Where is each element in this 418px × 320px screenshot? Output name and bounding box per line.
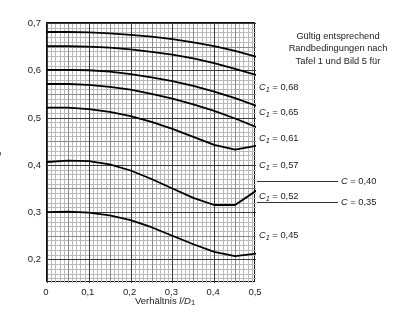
validity-note-line1: Gültig entsprechend <box>262 30 414 42</box>
curve-label-2: C1 = 0,65 <box>259 107 298 118</box>
curve-label-symbol: C <box>259 133 266 143</box>
chart-figure: 0,20,30,40,50,60,700,10,20,30,40,5 Berec… <box>0 0 418 320</box>
leader-label-2: C = 0,35 <box>341 197 376 207</box>
validity-note-line3: Tafel 1 und Bild 5 für <box>262 55 414 67</box>
curve-label-symbol: C <box>259 160 266 170</box>
y-axis-title: Berechnungsbeiwert C4 <box>0 102 2 202</box>
curve-label-value: = 0,65 <box>270 107 299 117</box>
x-tick-0-5: 0,5 <box>248 286 261 297</box>
curve-label-value: = 0,57 <box>270 160 299 170</box>
y-tick-0-5: 0,5 <box>11 111 41 122</box>
validity-note-line2: Randbedingungen nach <box>262 42 414 54</box>
curve-label-value: = 0,68 <box>270 82 299 92</box>
curve-label-value: = 0,61 <box>270 133 299 143</box>
x-tick-0-4: 0,4 <box>207 286 220 297</box>
curve-label-symbol: C <box>259 82 266 92</box>
x-axis-title-italic: l/D <box>179 295 191 306</box>
leader-label-value: = 0,40 <box>348 176 377 186</box>
curve-label-symbol: C <box>259 107 266 117</box>
curve-label-3: C1 = 0,61 <box>259 133 298 144</box>
curve-label-symbol: C <box>259 230 266 240</box>
curve-label-5: C1 = 0,52 <box>259 191 298 202</box>
curve-label-value: = 0,52 <box>270 191 299 201</box>
x-tick-0-1: 0,1 <box>81 286 94 297</box>
x-axis-title: Verhältnis l/D1 <box>135 295 195 307</box>
x-axis-title-text: Verhältnis <box>135 295 179 306</box>
curve-label-symbol: C <box>259 191 266 201</box>
y-tick-0-4: 0,4 <box>11 158 41 169</box>
validity-note: Gültig entsprechend Randbedingungen nach… <box>262 30 414 67</box>
curve-label-1: C1 = 0,68 <box>259 82 298 93</box>
leader-label-symbol: C <box>341 176 348 186</box>
leader-line-2 <box>257 202 338 203</box>
leader-label-symbol: C <box>341 197 348 207</box>
leader-label-1: C = 0,40 <box>341 176 376 186</box>
y-tick-0-2: 0,2 <box>11 253 41 264</box>
y-axis-title-text: Berechnungsbeiwert C <box>0 106 1 202</box>
leader-line-1 <box>257 181 338 182</box>
curve-label-4: C1 = 0,57 <box>259 160 298 171</box>
leader-label-value: = 0,35 <box>348 197 377 207</box>
y-tick-0-6: 0,6 <box>11 64 41 75</box>
y-tick-0-3: 0,3 <box>11 206 41 217</box>
y-tick-0-7: 0,7 <box>11 17 41 28</box>
x-axis-title-sub: 1 <box>191 298 195 307</box>
curve-label-6: C1 = 0,45 <box>259 230 298 241</box>
curve-label-value: = 0,45 <box>270 230 299 240</box>
x-tick-0: 0 <box>43 286 48 297</box>
y-axis-title-sub: 4 <box>0 102 2 106</box>
